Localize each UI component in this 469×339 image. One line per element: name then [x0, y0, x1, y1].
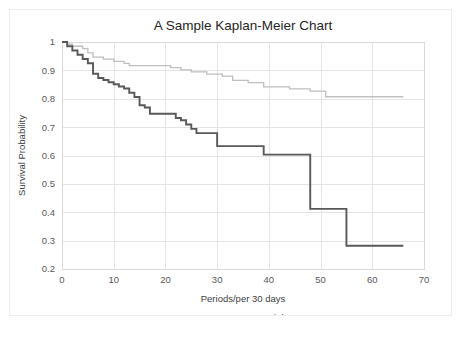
y-axis-tick-label: 0.6 — [42, 150, 55, 161]
series-line-low — [62, 42, 403, 97]
kaplan-meier-chart: 0.20.30.40.50.60.70.80.91010203040506070… — [10, 10, 451, 315]
y-axis-title: Survival Probability — [16, 115, 27, 196]
y-axis-tick-label: 0.2 — [42, 263, 55, 274]
y-axis-tick-label: 1 — [50, 36, 55, 47]
x-axis-tick-label: 50 — [315, 274, 326, 285]
y-axis-tick-label: 0.8 — [42, 93, 55, 104]
x-axis-tick-label: 10 — [108, 274, 119, 285]
x-axis-tick-label: 60 — [367, 274, 378, 285]
y-axis-tick-label: 0.5 — [42, 178, 55, 189]
x-axis-tick-label: 30 — [212, 274, 223, 285]
x-axis-tick-label: 40 — [264, 274, 275, 285]
chart-title: A Sample Kaplan-Meier Chart — [154, 18, 333, 33]
x-axis-tick-label: 70 — [419, 274, 430, 285]
legend-item-high-label[interactable]: High — [267, 312, 287, 315]
x-axis-tick-label: 20 — [160, 274, 171, 285]
y-axis-tick-label: 0.4 — [42, 207, 55, 218]
x-axis-tick-label: 0 — [59, 274, 64, 285]
legend-item-low-label[interactable]: Low — [207, 312, 225, 315]
series-line-high — [62, 42, 403, 246]
chart-figure: 0.20.30.40.50.60.70.80.91010203040506070… — [9, 9, 452, 316]
x-axis-title: Periods/per 30 days — [201, 293, 286, 304]
y-axis-tick-label: 0.7 — [42, 122, 55, 133]
y-axis-tick-label: 0.9 — [42, 65, 55, 76]
y-axis-tick-label: 0.3 — [42, 235, 55, 246]
